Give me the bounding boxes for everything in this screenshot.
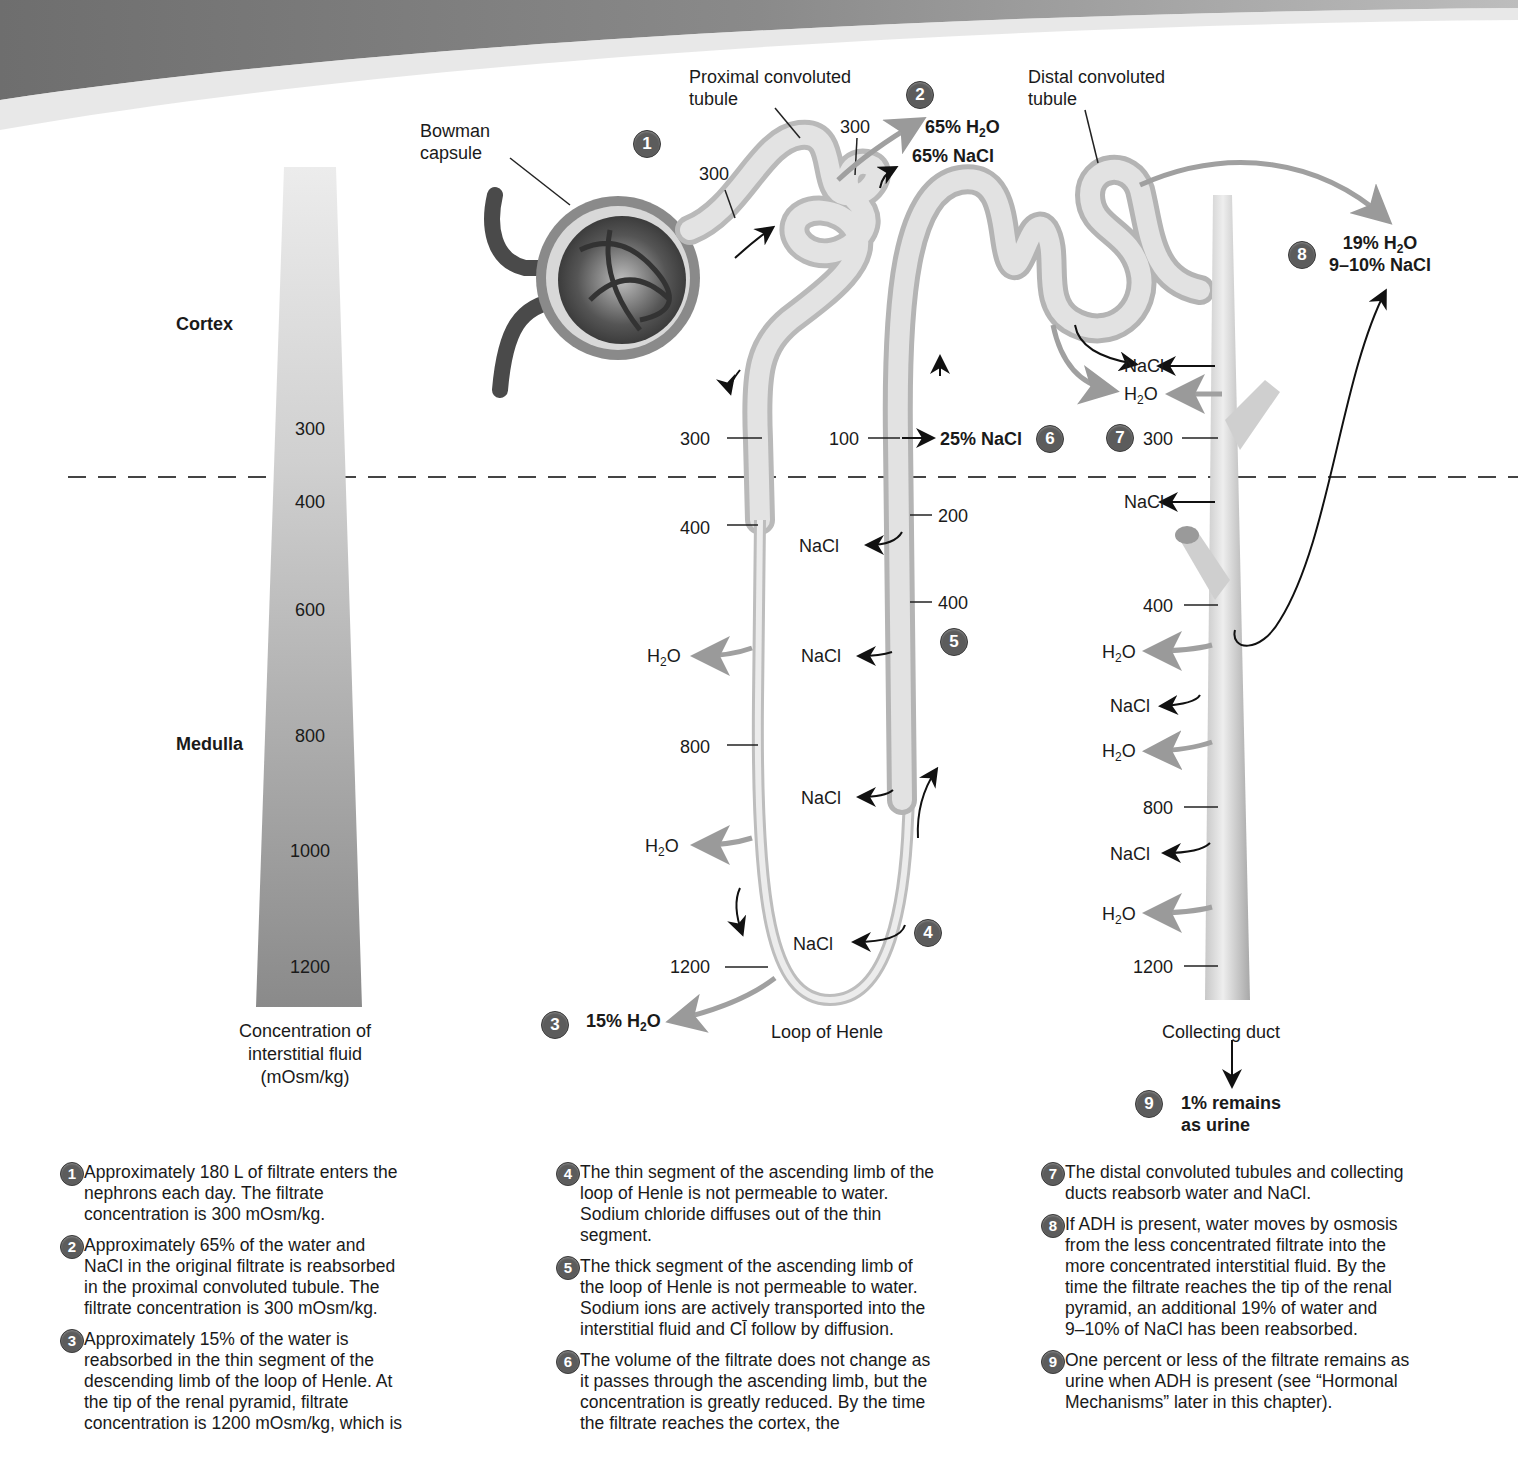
collecting-duct-label: Collecting duct — [1162, 1021, 1280, 1043]
value-label: 300 — [840, 116, 870, 138]
ion-nacl: NaCl — [1124, 355, 1164, 377]
step-marker-8: 8 — [1288, 241, 1316, 269]
callout-9: 1% remains as urine — [1181, 1092, 1281, 1136]
collecting-duct-shape — [1175, 195, 1280, 1000]
step-marker-3: 3 — [541, 1011, 569, 1039]
description-step-4: 4 The thin segment of the ascending limb… — [556, 1162, 1026, 1246]
nephron-illustration — [0, 0, 1518, 1150]
callout-6-nacl: 25% NaCl — [940, 428, 1022, 450]
ion-h2o: H2O — [1124, 383, 1158, 405]
ion-nacl: NaCl — [793, 933, 833, 955]
ion-nacl: NaCl — [801, 645, 841, 667]
value-label: 300 — [1143, 428, 1173, 450]
description-step-8: 8 If ADH is present, water moves by osmo… — [1041, 1214, 1511, 1340]
step-marker-2: 2 — [906, 81, 934, 109]
ion-nacl: NaCl — [1124, 491, 1164, 513]
description-column-3: 7 The distal convoluted tubules and coll… — [1041, 1162, 1511, 1423]
description-step-1: 1 Approximately 180 L of filtrate enters… — [60, 1162, 520, 1225]
value-label: 1200 — [670, 956, 710, 978]
description-column-1: 1 Approximately 180 L of filtrate enters… — [60, 1162, 520, 1444]
value-label: 400 — [938, 592, 968, 614]
value-label: 400 — [680, 517, 710, 539]
bowman-capsule — [536, 196, 700, 360]
description-step-7: 7 The distal convoluted tubules and coll… — [1041, 1162, 1511, 1204]
callout-2-h2o: 65% H2O — [925, 116, 1000, 138]
step-marker-1: 1 — [633, 130, 661, 158]
ion-h2o: H2O — [647, 645, 681, 667]
description-step-6: 6 The volume of the filtrate does not ch… — [556, 1350, 1026, 1434]
bowman-capsule-label: Bowman capsule — [420, 120, 490, 164]
description-step-2: 2 Approximately 65% of the water andNaCl… — [60, 1235, 520, 1319]
proximal-tubule-label: Proximal convoluted tubule — [689, 66, 851, 110]
ion-h2o: H2O — [1102, 903, 1136, 925]
value-label: 300 — [680, 428, 710, 450]
description-step-3: 3 Approximately 15% of the water isreabs… — [60, 1329, 520, 1434]
ion-nacl: NaCl — [799, 535, 839, 557]
ion-h2o: H2O — [1102, 641, 1136, 663]
value-label: 200 — [938, 505, 968, 527]
callout-8: 19% H2O 9–10% NaCl — [1320, 232, 1440, 276]
callout-2-nacl: 65% NaCl — [912, 145, 994, 167]
callout-3-h2o: 15% H2O — [586, 1010, 661, 1032]
description-step-9: 9 One percent or less of the filtrate re… — [1041, 1350, 1511, 1413]
ion-h2o: H2O — [1102, 740, 1136, 762]
step-marker-4: 4 — [914, 919, 942, 947]
step-marker-9: 9 — [1135, 1090, 1163, 1118]
value-label: 100 — [829, 428, 859, 450]
value-label: 800 — [1143, 797, 1173, 819]
loop-of-henle-label: Loop of Henle — [771, 1021, 883, 1043]
step-marker-5: 5 — [940, 628, 968, 656]
description-column-2: 4 The thin segment of the ascending limb… — [556, 1162, 1026, 1444]
ion-nacl: NaCl — [801, 787, 841, 809]
distal-tubule-label: Distal convoluted tubule — [1028, 66, 1165, 110]
ion-nacl: NaCl — [1110, 843, 1150, 865]
step-marker-7: 7 — [1106, 424, 1134, 452]
value-label: 1200 — [1133, 956, 1173, 978]
value-label: 400 — [1143, 595, 1173, 617]
description-step-5: 5 The thick segment of the ascending lim… — [556, 1256, 1026, 1340]
ion-nacl: NaCl — [1110, 695, 1150, 717]
value-label: 300 — [699, 163, 729, 185]
value-label: 800 — [680, 736, 710, 758]
step-marker-6: 6 — [1036, 425, 1064, 453]
ion-h2o: H2O — [645, 835, 679, 857]
